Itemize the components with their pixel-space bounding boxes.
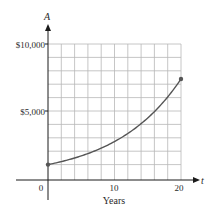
x-tick-label-20: 20: [175, 183, 185, 193]
endpoint-marker: [46, 162, 50, 166]
grid-lines: [45, 44, 181, 180]
x-axis-arrow-icon: [193, 177, 200, 183]
y-axis-arrow-icon: [45, 24, 51, 31]
y-tick-label-5000: $5,000: [20, 107, 45, 117]
x-tick-label-0: 0: [39, 183, 44, 193]
y-tick-label-10000: $10,000: [16, 40, 46, 50]
exponential-growth-chart: A t $10,000 $5,000 0 10 20 Years: [0, 0, 209, 217]
x-axis-title: Years: [103, 195, 125, 206]
x-tick-label-10: 10: [110, 183, 120, 193]
y-axis-symbol: A: [43, 11, 51, 22]
x-axis-symbol: t: [201, 175, 204, 186]
endpoint-marker: [179, 77, 183, 81]
